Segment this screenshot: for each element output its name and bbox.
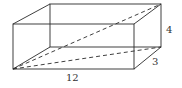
front-face (13, 24, 134, 69)
length-label: 12 (66, 72, 79, 83)
space-diagonal (13, 4, 161, 69)
base-diagonal (13, 47, 161, 69)
depth-label: 3 (152, 56, 158, 67)
back-face (50, 4, 161, 47)
height-label: 4 (166, 24, 172, 35)
prism-diagram: 12 3 4 (0, 0, 182, 88)
edge-bottom-left (13, 47, 50, 69)
edge-top-left (13, 4, 50, 24)
